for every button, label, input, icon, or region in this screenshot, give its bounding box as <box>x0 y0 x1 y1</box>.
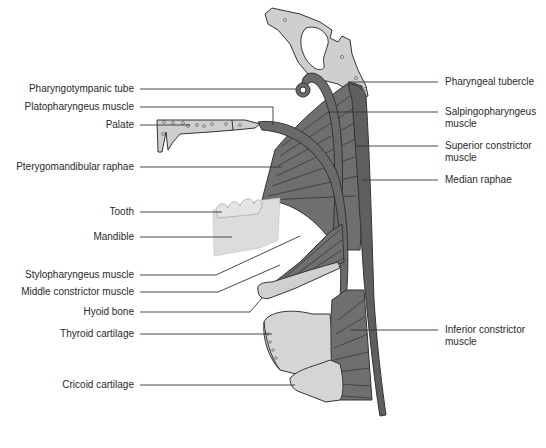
label-stylopharyngeus-muscle: Stylopharyngeus muscle <box>25 269 134 281</box>
label-inferior-constrictor-muscle: Inferior constrictor muscle <box>445 324 546 348</box>
label-pharyngotympanic-tube: Pharyngotympanic tube <box>29 83 134 95</box>
label-palate: Palate <box>106 119 134 131</box>
label-median-raphae: Median raphae <box>445 174 546 186</box>
label-tooth: Tooth <box>110 206 134 218</box>
label-superior-constrictor-muscle: Superior constrictor muscle <box>445 140 546 164</box>
label-hyoid-bone: Hyoid bone <box>83 306 134 318</box>
label-pterygomandibular-raphae: Pterygomandibular raphae <box>16 161 134 173</box>
label-middle-constrictor-muscle: Middle constrictor muscle <box>21 286 134 298</box>
label-salpingopharyngeus-muscle: Salpingopharyngeus muscle <box>445 106 546 130</box>
mandible-bone <box>213 198 280 256</box>
label-cricoid-cartilage: Cricoid cartilage <box>62 379 134 391</box>
label-thyroid-cartilage: Thyroid cartilage <box>60 328 134 340</box>
label-platopharyngeus-muscle: Platopharyngeus muscle <box>24 101 134 113</box>
label-mandible: Mandible <box>93 231 134 243</box>
label-pharyngeal-tubercle: Pharyngeal tubercle <box>445 76 546 88</box>
